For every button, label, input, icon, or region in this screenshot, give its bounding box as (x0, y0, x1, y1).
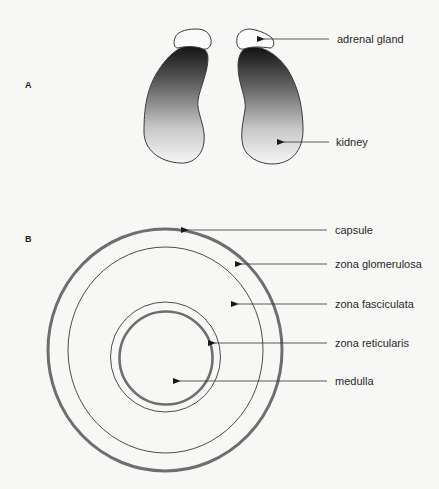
left-adrenal-gland (174, 29, 211, 49)
panel-a-letter: A (25, 80, 32, 90)
panel-b-letter: B (25, 234, 32, 244)
zona-reticularis-label: zona reticularis (335, 337, 409, 349)
adrenal-diagram (0, 0, 439, 489)
zona-glomerulosa-label: zona glomerulosa (335, 258, 422, 270)
capsule-ring (48, 229, 282, 471)
right-kidney (238, 47, 303, 164)
capsule-label: capsule (335, 224, 373, 236)
zona-fasciculata-label: zona fasciculata (335, 298, 414, 310)
zona-glomerulosa-ring (68, 247, 263, 453)
medulla-ring (120, 312, 213, 405)
kidney-label: kidney (336, 136, 368, 148)
zona-reticularis-ring (111, 302, 221, 412)
medulla-label: medulla (335, 375, 374, 387)
left-kidney (144, 46, 208, 164)
adrenal-gland-label: adrenal gland (337, 33, 404, 45)
